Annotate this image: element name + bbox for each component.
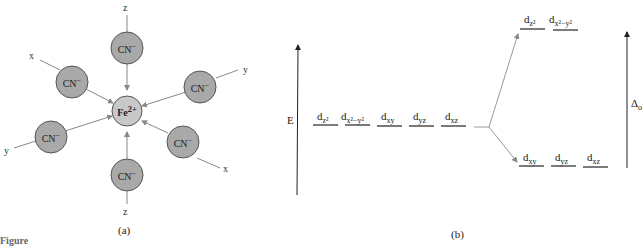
orbital-dxz: dxz [445, 111, 458, 125]
axis-label-y-right: y [243, 65, 248, 75]
orbital-dxy: dxy [381, 111, 395, 125]
orbital-dyz: dyz [413, 111, 426, 125]
caption-b: (b) [451, 229, 464, 240]
axis-label-x-top: x [29, 51, 34, 61]
t2g-orbital-dyz: dyz [555, 152, 568, 166]
eg-levels [520, 29, 578, 30]
splitting-label: Δo [631, 98, 642, 112]
caption-a: (a) [118, 225, 130, 236]
eg-orbital-dz2: dz² [524, 14, 535, 28]
split-arrow-down [489, 127, 517, 162]
ligand-cn-bottom: CN− [111, 170, 143, 182]
degenerate-levels [313, 125, 466, 126]
figure-caption-partial: Figure [0, 236, 28, 246]
t2g-orbital-dxz: dxz [587, 152, 600, 166]
ligand-cn-lower-right: CN− [167, 137, 199, 149]
center-ion-fe: Fe2+ [111, 106, 143, 118]
t2g-orbital-dxy: dxy [523, 152, 537, 166]
energy-label: E [287, 115, 294, 126]
ligand-cn-upper-right: CN− [184, 82, 216, 94]
eg-orbital-dx2y2: dx²−y² [549, 14, 572, 28]
axis-label-z-top: z [123, 3, 127, 13]
orbital-dx2y2: dx²−y² [341, 111, 364, 125]
orbital-dz2: dz² [317, 111, 328, 125]
ligand-cn-top: CN− [111, 43, 143, 55]
ligand-cn-lower-left: CN− [35, 132, 67, 144]
split-arrow-up [489, 34, 518, 127]
axis-label-x-bottom: x [223, 164, 228, 174]
energy-axis [297, 45, 298, 195]
axis-label-z-bottom: z [123, 207, 127, 217]
ligand-cn-upper-left: CN− [56, 77, 88, 89]
t2g-levels [519, 166, 608, 167]
axis-label-y-left: y [4, 146, 9, 156]
